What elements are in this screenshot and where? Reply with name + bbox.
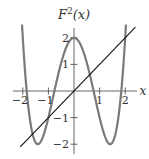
chart-title: F2(x)	[57, 6, 90, 22]
y-tick-label: −1	[53, 112, 69, 125]
line-y-equals-x	[20, 27, 135, 147]
x-tick-label: 2	[122, 94, 129, 107]
x-tick-label: −1	[37, 94, 53, 107]
x-tick-label: −2	[12, 94, 28, 107]
x-tick-label: 1	[96, 94, 103, 107]
x-axis-label: x	[140, 84, 147, 98]
y-tick-label: 2	[62, 32, 69, 45]
y-tick-label: 1	[62, 58, 69, 71]
y-tick-label: −2	[53, 138, 69, 151]
series-group	[20, 25, 135, 147]
chart: −2−11221−1−2xF2(x)	[0, 0, 149, 159]
